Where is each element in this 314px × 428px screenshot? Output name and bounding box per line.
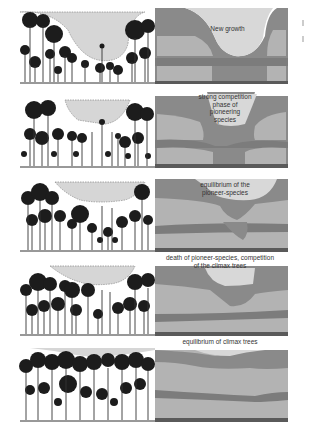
stage-5-panel: equilibrium of climax trees <box>10 344 288 422</box>
stage-2-forest-illustration <box>10 92 155 168</box>
stage-5-label: equilibrium of climax trees <box>165 338 275 346</box>
stage-4-canopy-profile <box>155 260 288 336</box>
stage-1-panel: New growth <box>10 8 288 84</box>
stage-1-forest-illustration <box>10 8 155 84</box>
stage-3-forest-illustration <box>10 176 155 252</box>
stage-5-canopy-profile <box>155 344 288 422</box>
stage-2-label: strong competition phase of pioneering s… <box>195 93 255 123</box>
stage-3-label: equilibrium of the pioneer-species <box>190 181 260 196</box>
stage-1-canopy-profile: New growth <box>155 8 288 84</box>
stage-5-forest-illustration <box>10 344 155 422</box>
stage-3-panel: equilibrium of the pioneer-species <box>10 176 288 252</box>
stage-4-panel: death of pioneer-species, competition of… <box>10 260 288 336</box>
stage-2-panel: strong competition phase of pioneering s… <box>10 92 288 168</box>
stage-1-label: New growth <box>200 25 255 33</box>
stage-2-canopy-profile: strong competition phase of pioneering s… <box>155 92 288 168</box>
stage-4-forest-illustration <box>10 260 155 336</box>
edge-mark <box>302 20 304 26</box>
stage-4-label: death of pioneer-species, competition of… <box>145 254 295 269</box>
stage-3-canopy-profile: equilibrium of the pioneer-species <box>155 176 288 252</box>
edge-mark <box>302 36 304 42</box>
